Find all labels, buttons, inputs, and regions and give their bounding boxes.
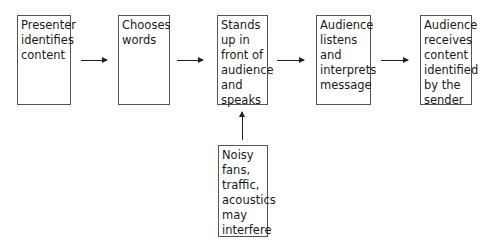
box-audience-receives: Audience receives content identified by … <box>420 15 472 105</box>
box-line: identifies <box>21 33 67 48</box>
box-line: identified <box>424 63 468 78</box>
box-presenter-identifies-content: Presenter identifies content <box>17 15 71 105</box>
arrow-step2-to-step3 <box>177 60 203 61</box>
box-line: Stands <box>221 18 264 33</box>
box-line: interfere <box>222 223 264 238</box>
box-line: listens <box>320 33 367 48</box>
box-line: and <box>320 48 367 63</box>
box-line: speaks <box>221 93 264 108</box>
box-chooses-words: Chooses words <box>118 15 170 105</box>
box-line: may <box>222 208 264 223</box>
box-line: audience <box>221 63 264 78</box>
box-line: fans, <box>222 163 264 178</box>
box-stands-up-and-speaks: Stands up in front of audience and speak… <box>217 15 268 105</box>
box-line: content <box>424 48 468 63</box>
box-line: Chooses <box>122 18 166 33</box>
box-line: Audience <box>320 18 367 33</box>
box-line: message <box>320 78 367 93</box>
box-line: up in <box>221 33 264 48</box>
box-line: Noisy <box>222 148 264 163</box>
box-line: Presenter <box>21 18 67 33</box>
arrow-interference-to-step3 <box>242 112 243 140</box>
box-line: receives <box>424 33 468 48</box>
box-line: by the <box>424 78 468 93</box>
arrow-step3-to-step4 <box>277 60 304 61</box>
box-line: and <box>221 78 264 93</box>
box-line: front of <box>221 48 264 63</box>
box-line: acoustics <box>222 193 264 208</box>
box-line: content <box>21 48 67 63</box>
box-line: sender <box>424 93 468 108</box>
arrow-step1-to-step2 <box>81 60 107 61</box>
arrow-step4-to-step5 <box>381 60 408 61</box>
box-interference: Noisy fans, traffic, acoustics may inter… <box>218 145 268 237</box>
box-line: interprets <box>320 63 367 78</box>
box-line: traffic, <box>222 178 264 193</box>
box-line: Audience <box>424 18 468 33</box>
box-line: words <box>122 33 166 48</box>
box-audience-listens: Audience listens and interprets message <box>316 15 371 105</box>
